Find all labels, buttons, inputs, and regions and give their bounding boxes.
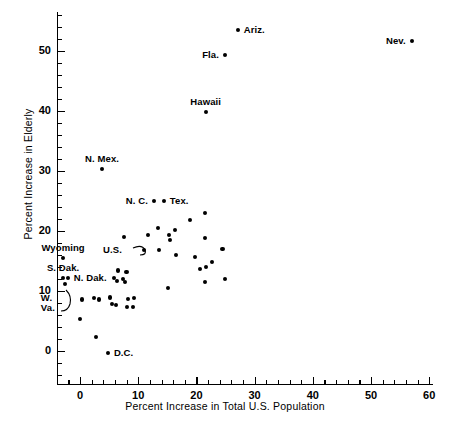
us-leader-line (0, 0, 450, 431)
scatter-plot-figure: 010203040506001020304050 Ariz.Nev.Fla.Ha… (0, 0, 450, 431)
y-axis-label: Percent Increase in Elderly (22, 84, 34, 264)
x-axis-label: Percent Increase in Total U.S. Populatio… (0, 400, 450, 412)
